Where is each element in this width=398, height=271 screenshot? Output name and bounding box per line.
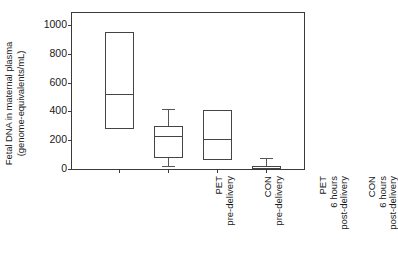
y-axis-tick-label: 1000: [33, 19, 67, 30]
box-plot-median: [154, 136, 183, 137]
y-axis-tick: [68, 25, 72, 26]
x-axis-category-label-line: 6 hours: [328, 176, 339, 262]
y-axis-title: Fetal DNA in maternal plasma (genome-equ…: [3, 6, 26, 202]
whisker-upper: [168, 109, 169, 126]
box-plot-median: [105, 94, 134, 95]
y-axis-tick: [68, 140, 72, 141]
x-axis-tick: [119, 169, 120, 173]
whisker-cap-upper: [260, 158, 273, 159]
x-axis-category-label-line: post-delivery: [388, 176, 398, 262]
y-axis-tick-label: 400: [33, 105, 67, 116]
x-axis-category-label-line: post-delivery: [339, 176, 350, 262]
whisker-cap-upper: [162, 109, 175, 110]
box-plot-median: [252, 168, 281, 169]
x-axis-category-label: CONpre-delivery: [263, 176, 277, 262]
whisker-lower: [168, 158, 169, 166]
y-axis-tick: [68, 83, 72, 84]
box-plot-box: [105, 32, 134, 128]
plot-inner: [72, 13, 304, 169]
x-axis-category-label: CON6 hourspost-delivery: [367, 176, 381, 262]
x-axis-category-label-line: PET: [214, 176, 225, 262]
x-axis-category-label-line: PET: [318, 176, 329, 262]
x-axis-category-label-line: CON: [367, 176, 378, 262]
y-axis-tick-label: 200: [33, 134, 67, 145]
y-axis-tick-label: 600: [33, 77, 67, 88]
y-axis-tick: [68, 54, 72, 55]
x-axis-category-label-line: CON: [263, 176, 274, 262]
x-axis-category-label-line: pre-delivery: [225, 176, 236, 262]
x-axis-tick: [217, 169, 218, 173]
x-axis-category-label-line: 6 hours: [377, 176, 388, 262]
x-axis-tick: [168, 169, 169, 173]
box-plot-median: [203, 139, 232, 140]
y-axis-tick-labels: 02004006008001000: [31, 0, 67, 271]
x-axis-category-label-line: pre-delivery: [274, 176, 285, 262]
plot-area: [71, 12, 305, 170]
whisker-upper: [266, 158, 267, 166]
box-plot-box: [203, 110, 232, 160]
whisker-cap-lower: [162, 166, 175, 167]
y-axis-title-line1: Fetal DNA in maternal plasma: [3, 6, 15, 202]
x-axis-tick: [266, 169, 267, 173]
box-plot-box: [154, 126, 183, 158]
y-axis-tick: [68, 169, 72, 170]
x-axis-category-label: PET6 hourspost-delivery: [318, 176, 332, 262]
y-axis-tick: [68, 111, 72, 112]
x-axis-category-label: PETpre-delivery: [214, 176, 228, 262]
y-axis-title-line2: (genome-equivalents/mL): [14, 6, 26, 202]
y-axis-tick-label: 800: [33, 48, 67, 59]
y-axis-tick-label: 0: [33, 163, 67, 174]
